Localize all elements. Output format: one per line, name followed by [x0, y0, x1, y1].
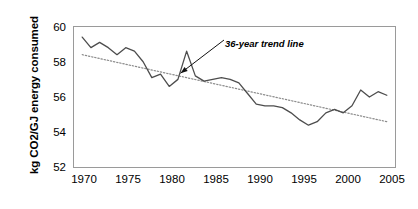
data-line-series — [82, 37, 387, 125]
annotation-arrow-line — [181, 40, 224, 73]
plot-area-border — [74, 27, 396, 168]
chart-canvas — [0, 0, 418, 209]
chart-figure: kg CO2/GJ energy consumed 60 58 56 54 52… — [0, 0, 418, 209]
